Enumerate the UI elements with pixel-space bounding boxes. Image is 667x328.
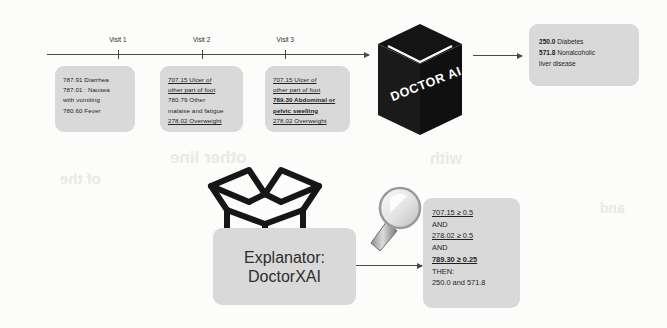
timeline-tick-2 xyxy=(202,50,203,59)
magnifier-icon xyxy=(368,185,428,257)
explanation-rule-list: 707.15 ≥ 0.5AND278.02 ≥ 0.5AND789.30 ≥ 0… xyxy=(423,198,520,298)
prediction-line: 250.0 Diabetes xyxy=(539,36,629,47)
visit-3-line: 707.15 Ulcer of xyxy=(273,75,342,85)
visit-1-line: 787.01 : Nausea xyxy=(63,85,127,95)
visit-1-card: 787.91 Diarrhea787.01 : Nauseawith vomit… xyxy=(55,66,135,132)
timeline-axis xyxy=(47,54,369,55)
explanator-label: Explanator: DoctorXAI xyxy=(244,248,325,286)
visit-2-line: other part of foot xyxy=(168,85,235,95)
visit-2-code-list: 707.15 Ulcer ofother part of foot780.79 … xyxy=(168,75,235,126)
visit-3-card: 707.15 Ulcer ofother part of foot789.30 … xyxy=(265,66,350,132)
timeline-label-visit-2: Visit 2 xyxy=(193,36,210,43)
arrow-explanator-to-rules xyxy=(356,265,422,266)
rule-line: 707.15 ≥ 0.5 xyxy=(432,207,511,219)
visit-2-line: malaise and fatigue xyxy=(168,106,235,116)
rule-line: 250.0 and 571.8 xyxy=(432,277,511,289)
visit-2-card: 707.15 Ulcer ofother part of foot780.79 … xyxy=(160,66,243,132)
visit-2-line: 780.79 Other xyxy=(168,95,235,105)
prediction-code-list: 250.0 Diabetes571.8 Nonalcoholicliver di… xyxy=(529,24,639,81)
visit-3-line: 278.02 Overweight xyxy=(273,116,342,126)
rule-line: AND xyxy=(432,219,511,231)
visit-3-line: other part of foot xyxy=(273,85,342,95)
explanator-card: Explanator: DoctorXAI xyxy=(213,228,356,305)
prediction-line: 571.8 Nonalcoholic xyxy=(539,47,629,58)
scan-artifact: and xyxy=(600,200,625,216)
prediction-card: 250.0 Diabetes571.8 Nonalcoholicliver di… xyxy=(529,24,639,86)
doctor-ai-cube xyxy=(376,22,464,137)
explanation-rule-card: 707.15 ≥ 0.5AND278.02 ≥ 0.5AND789.30 ≥ 0… xyxy=(423,198,520,308)
timeline-label-visit-1: Visit 1 xyxy=(109,36,126,43)
figure-canvas: other lineof thewithand Visit 1Visit 2Vi… xyxy=(0,0,667,328)
rule-line: AND xyxy=(432,242,511,254)
prediction-line: liver disease xyxy=(539,58,629,69)
visit-1-line: 787.91 Diarrhea xyxy=(63,75,127,85)
scan-artifact: of the xyxy=(60,170,101,187)
rule-line: 789.30 ≥ 0.25 xyxy=(432,254,511,266)
visit-3-line: 789.30 Abdominal or xyxy=(273,95,342,105)
timeline-tick-1 xyxy=(118,50,119,59)
visit-1-line: 780.60 Fever xyxy=(63,106,127,116)
arrow-cube-to-prediction xyxy=(473,55,522,56)
timeline-tick-3 xyxy=(285,50,286,59)
visit-3-code-list: 707.15 Ulcer ofother part of foot789.30 … xyxy=(273,75,342,126)
visit-3-line: pelvic swelling xyxy=(273,106,342,116)
scan-artifact: with xyxy=(430,150,462,168)
rule-line: THEN: xyxy=(432,266,511,278)
visit-2-line: 278.02 Overweight xyxy=(168,116,235,126)
visit-1-code-list: 787.91 Diarrhea787.01 : Nauseawith vomit… xyxy=(63,75,127,116)
visit-1-line: with vomiting xyxy=(63,95,127,105)
rule-line: 278.02 ≥ 0.5 xyxy=(432,230,511,242)
visit-2-line: 707.15 Ulcer of xyxy=(168,75,235,85)
timeline-label-visit-3: Visit 3 xyxy=(277,36,294,43)
